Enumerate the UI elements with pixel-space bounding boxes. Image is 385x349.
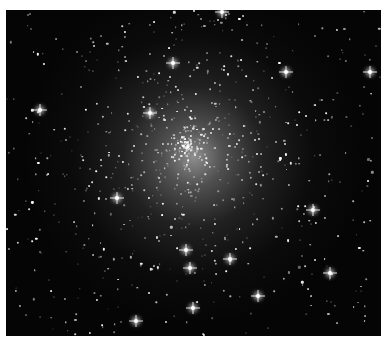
star bbox=[241, 39, 243, 41]
star bbox=[296, 124, 298, 126]
star bbox=[100, 295, 102, 297]
star bbox=[218, 190, 220, 192]
star bbox=[181, 218, 182, 219]
star bbox=[112, 173, 113, 174]
star bbox=[182, 206, 184, 208]
star bbox=[78, 140, 79, 141]
star bbox=[272, 217, 274, 219]
star bbox=[179, 147, 181, 149]
star bbox=[364, 315, 366, 317]
star bbox=[31, 201, 33, 203]
star bbox=[292, 50, 293, 51]
star bbox=[243, 203, 245, 205]
star bbox=[236, 143, 238, 145]
star bbox=[142, 83, 143, 84]
star bbox=[220, 179, 222, 181]
star bbox=[246, 24, 248, 26]
star bbox=[200, 148, 202, 150]
star bbox=[169, 150, 171, 152]
star bbox=[193, 176, 195, 178]
star bbox=[79, 288, 80, 289]
star bbox=[298, 266, 300, 268]
star bbox=[212, 128, 214, 130]
star bbox=[122, 25, 124, 27]
star bbox=[160, 173, 161, 174]
star bbox=[214, 102, 216, 104]
star bbox=[166, 293, 168, 295]
star bbox=[288, 87, 289, 88]
star bbox=[272, 178, 274, 180]
star bbox=[206, 52, 208, 54]
star bbox=[173, 154, 175, 156]
star bbox=[161, 152, 163, 154]
star bbox=[333, 305, 335, 307]
star bbox=[108, 309, 109, 310]
star bbox=[211, 250, 213, 252]
star bbox=[43, 63, 45, 65]
star bbox=[42, 53, 43, 54]
star bbox=[206, 162, 208, 164]
star bbox=[80, 86, 82, 88]
star bbox=[235, 174, 236, 175]
star bbox=[253, 80, 254, 81]
star bbox=[188, 153, 189, 154]
star bbox=[194, 154, 196, 156]
star bbox=[81, 55, 82, 56]
star bbox=[197, 139, 198, 140]
star bbox=[167, 143, 169, 145]
star bbox=[89, 332, 91, 334]
star bbox=[37, 162, 39, 164]
star bbox=[38, 190, 40, 192]
star bbox=[122, 161, 124, 163]
star bbox=[189, 184, 190, 185]
star bbox=[140, 174, 142, 176]
star bbox=[261, 25, 263, 27]
star bbox=[170, 269, 171, 270]
star bbox=[320, 99, 321, 100]
star bbox=[17, 242, 19, 244]
star bbox=[310, 224, 311, 225]
star bbox=[345, 152, 347, 154]
star bbox=[96, 171, 98, 173]
star bbox=[197, 148, 199, 150]
star bbox=[129, 256, 131, 258]
star bbox=[217, 19, 219, 21]
star bbox=[118, 50, 119, 51]
star bbox=[167, 166, 168, 167]
star bbox=[84, 244, 85, 245]
star bbox=[298, 23, 300, 25]
star bbox=[169, 76, 171, 78]
star bbox=[157, 152, 159, 154]
star bbox=[237, 174, 238, 175]
star bbox=[6, 228, 8, 230]
star bbox=[219, 103, 221, 105]
star bbox=[65, 322, 66, 323]
star bbox=[150, 214, 151, 215]
star bbox=[300, 255, 302, 257]
star bbox=[229, 133, 231, 135]
star bbox=[275, 236, 277, 238]
star bbox=[25, 117, 27, 119]
star bbox=[364, 320, 366, 322]
star bbox=[239, 296, 240, 297]
star bbox=[175, 152, 176, 153]
star bbox=[99, 256, 101, 258]
star bbox=[122, 46, 123, 47]
star bbox=[209, 123, 210, 124]
star bbox=[25, 200, 26, 201]
star bbox=[214, 166, 215, 167]
star bbox=[245, 333, 246, 334]
star bbox=[223, 69, 225, 71]
star bbox=[273, 290, 275, 292]
star bbox=[186, 106, 188, 108]
star bbox=[164, 234, 165, 235]
star bbox=[163, 114, 165, 116]
star bbox=[173, 11, 175, 13]
star bbox=[232, 157, 233, 158]
star bbox=[309, 244, 311, 246]
star bbox=[219, 91, 220, 92]
star bbox=[182, 98, 184, 100]
star bbox=[97, 60, 98, 61]
star bbox=[304, 265, 306, 267]
star bbox=[324, 119, 325, 120]
